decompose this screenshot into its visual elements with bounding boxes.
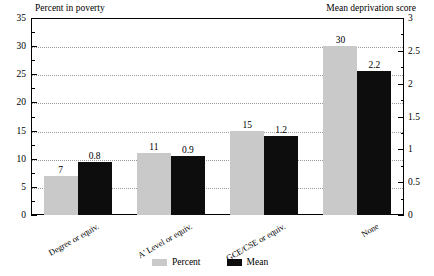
poverty-deprivation-bar-chart: Percent in poverty Mean deprivation scor… — [0, 0, 434, 276]
bar-value-percent: 15 — [230, 120, 264, 130]
bar-value-percent: 7 — [44, 165, 78, 175]
right-axis-title: Mean deprivation score — [326, 3, 416, 14]
left-axis-tick-label: 20 — [4, 97, 26, 107]
bar-value-percent: 11 — [137, 142, 171, 152]
right-axis-tick — [401, 133, 405, 134]
right-axis-tick — [398, 18, 404, 19]
right-axis-tick — [398, 182, 404, 183]
legend-swatch-mean-icon — [227, 259, 242, 266]
right-axis-tick-label: 0.5 — [408, 177, 420, 187]
left-axis-tick — [31, 117, 35, 118]
left-axis-tick — [31, 201, 35, 202]
category-label: Degree or equiv. — [13, 221, 101, 276]
legend-item-percent: Percent — [152, 257, 201, 267]
left-axis-tick — [31, 74, 37, 75]
legend-swatch-percent-icon — [152, 259, 167, 266]
left-axis-tick — [31, 88, 35, 89]
left-axis-tick-label: 15 — [4, 126, 26, 136]
left-axis-tick-label: 35 — [4, 13, 26, 23]
right-axis-tick-label: 1 — [408, 144, 413, 154]
bar-percent — [137, 153, 171, 215]
right-axis-tick — [398, 117, 404, 118]
bar-value-mean: 0.9 — [171, 145, 205, 155]
right-axis-tick — [398, 149, 404, 150]
right-axis-tick — [401, 199, 405, 200]
left-axis-tick — [31, 32, 35, 33]
left-axis-tick — [31, 215, 37, 216]
right-axis-tick — [401, 67, 405, 68]
left-axis-tick — [31, 18, 37, 19]
right-axis-tick-label: 2 — [408, 79, 413, 89]
legend-item-mean: Mean — [227, 257, 269, 267]
right-axis-tick-label: 1.5 — [408, 112, 420, 122]
left-axis-tick — [31, 60, 35, 61]
left-axis-title: Percent in poverty — [35, 3, 105, 14]
right-axis-tick-label: 3 — [408, 13, 413, 23]
bar-percent — [230, 131, 264, 215]
right-axis-tick — [398, 84, 404, 85]
bar-percent — [44, 176, 78, 215]
left-axis-tick-label: 5 — [4, 182, 26, 192]
bar-mean — [78, 162, 112, 215]
legend-label-mean: Mean — [247, 257, 269, 267]
left-axis-tick-label: 0 — [4, 210, 26, 220]
bar-value-mean: 2.2 — [357, 60, 391, 70]
bar-mean — [171, 156, 205, 215]
chart-legend: Percent Mean — [152, 256, 294, 268]
bar-mean — [357, 71, 391, 215]
bar-value-mean: 0.8 — [78, 151, 112, 161]
bar-mean — [264, 136, 298, 215]
left-axis-tick — [31, 187, 37, 188]
left-axis-tick — [31, 145, 35, 146]
bar-percent — [323, 46, 357, 215]
right-axis-tick-label: 0 — [408, 210, 413, 220]
legend-label-percent: Percent — [172, 257, 201, 267]
left-axis-tick-label: 10 — [4, 154, 26, 164]
right-axis-tick — [401, 166, 405, 167]
left-axis-tick — [31, 102, 37, 103]
bar-value-mean: 1.2 — [264, 125, 298, 135]
right-axis-tick — [398, 215, 404, 216]
left-axis-tick-label: 25 — [4, 69, 26, 79]
left-axis-tick-label: 30 — [4, 41, 26, 51]
left-axis-tick — [31, 131, 37, 132]
right-axis-tick — [398, 51, 404, 52]
left-axis-tick — [31, 159, 37, 160]
right-axis-tick — [401, 100, 405, 101]
left-axis-tick — [31, 173, 35, 174]
bar-value-percent: 30 — [323, 35, 357, 45]
right-axis-tick — [401, 34, 405, 35]
left-axis-tick — [31, 46, 37, 47]
right-axis-tick-label: 2.5 — [408, 46, 420, 56]
